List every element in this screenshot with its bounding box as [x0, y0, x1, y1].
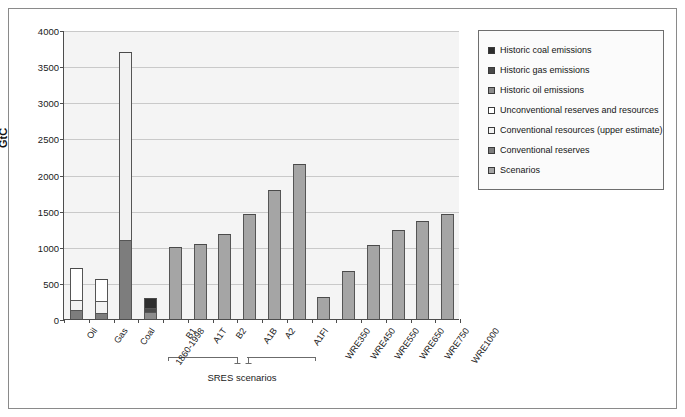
bar-segment [218, 234, 231, 319]
bar-segment [342, 271, 355, 319]
bar[interactable] [243, 214, 256, 319]
legend-swatch-icon [488, 167, 495, 174]
legend-item[interactable]: Conventional reserves [488, 140, 655, 160]
x-axis-tick-mark [64, 319, 65, 323]
bar-segment [392, 230, 405, 319]
gridline [64, 31, 459, 32]
x-axis-tick-mark [138, 319, 139, 323]
y-axis-tick-mark [60, 103, 64, 104]
x-axis-tick-mark [188, 319, 189, 323]
x-axis-tick-mark [411, 319, 412, 323]
sres-brace-label: SRES scenarios [168, 372, 316, 383]
x-axis-tick-mark [114, 319, 115, 323]
bar[interactable] [268, 190, 281, 319]
bar[interactable] [441, 214, 454, 319]
x-axis-tick-mark [435, 319, 436, 323]
legend-swatch-icon [488, 147, 495, 154]
bar[interactable] [293, 164, 306, 319]
bar[interactable] [218, 234, 231, 319]
chart-root: GtC 05001000150020002500300035004000 SRE… [0, 0, 685, 417]
y-axis-tick-label: 0 [54, 315, 59, 326]
legend-item-label: Historic oil emissions [500, 86, 584, 95]
bar-segment [119, 52, 132, 240]
bar[interactable] [367, 245, 380, 319]
legend-item-label: Historic gas emissions [500, 66, 590, 75]
bar-segment [367, 245, 380, 319]
x-axis-tick-mark [89, 319, 90, 323]
x-axis-tick-mark [163, 319, 164, 323]
legend-item[interactable]: Historic gas emissions [488, 60, 655, 80]
x-axis-tick-mark [213, 319, 214, 323]
bar-segment [416, 221, 429, 319]
bar-segment [95, 279, 108, 301]
y-axis-tick-label: 4000 [38, 26, 59, 37]
y-axis-tick-mark [60, 139, 64, 140]
y-axis-tick-mark [60, 176, 64, 177]
y-axis-tick-labels: 05001000150020002500300035004000 [25, 31, 59, 320]
bar[interactable] [416, 221, 429, 319]
x-axis-tick-mark [386, 319, 387, 323]
legend-item-label: Historic coal emissions [500, 46, 592, 55]
x-axis-tick-mark [336, 319, 337, 323]
y-axis-tick-mark [60, 212, 64, 213]
y-axis-tick-mark [60, 31, 64, 32]
legend-swatch-icon [488, 47, 495, 54]
bar[interactable] [194, 244, 207, 319]
bar-segment [95, 313, 108, 320]
bar-segment [95, 301, 108, 313]
bar[interactable] [342, 271, 355, 319]
legend-item[interactable]: Unconventional reserves and resources [488, 100, 655, 120]
bar[interactable] [119, 52, 132, 319]
legend-item-label: Conventional resources (upper estimate) [500, 126, 663, 135]
y-axis-tick-label: 1000 [38, 242, 59, 253]
y-axis-tick-label: 2500 [38, 134, 59, 145]
legend-swatch-icon [488, 67, 495, 74]
bar-segment [70, 268, 83, 300]
x-axis-tick-mark [237, 319, 238, 323]
y-axis-tick-label: 500 [43, 278, 59, 289]
y-axis-tick-label: 2000 [38, 170, 59, 181]
bar-segment [119, 240, 132, 319]
legend-swatch-icon [488, 87, 495, 94]
bar[interactable] [144, 298, 157, 319]
bar[interactable] [95, 279, 108, 319]
legend-item-label: Unconventional reserves and resources [500, 106, 659, 115]
sres-brace [168, 356, 316, 368]
bar-segment [144, 312, 157, 319]
legend-item-label: Conventional reserves [500, 146, 590, 155]
y-axis-tick-label: 3500 [38, 62, 59, 73]
bar-segment [194, 244, 207, 319]
bar[interactable] [392, 230, 405, 319]
bar-segment [268, 190, 281, 319]
legend-swatch-icon [488, 107, 495, 114]
bar-segment [144, 298, 157, 308]
x-axis-tick-mark [262, 319, 263, 323]
legend-item[interactable]: Historic coal emissions [488, 40, 655, 60]
y-axis-tick-mark [60, 284, 64, 285]
bar-segment [243, 214, 256, 319]
x-axis-tick-mark [312, 319, 313, 323]
legend-item[interactable]: Conventional resources (upper estimate) [488, 120, 655, 140]
x-axis-tick-mark [361, 319, 362, 323]
bar-segment [70, 310, 83, 319]
plot-area [63, 31, 459, 320]
legend-item-label: Scenarios [500, 166, 540, 175]
legend-item[interactable]: Historic oil emissions [488, 80, 655, 100]
bar-segment [293, 164, 306, 319]
bar-segment [441, 214, 454, 319]
y-axis-tick-label: 1500 [38, 206, 59, 217]
bar[interactable] [70, 268, 83, 319]
y-axis-tick-mark [60, 67, 64, 68]
bar-segment [70, 300, 83, 311]
y-axis-tick-label: 3000 [38, 98, 59, 109]
bar-segment [169, 247, 182, 319]
x-axis-tick-mark [287, 319, 288, 323]
legend-swatch-icon [488, 127, 495, 134]
y-axis-title: GtC [0, 128, 9, 148]
bar[interactable] [169, 247, 182, 319]
x-axis-tick-mark [460, 319, 461, 323]
legend-item[interactable]: Scenarios [488, 160, 655, 180]
bar-segment [317, 297, 330, 319]
chart-legend: Historic coal emissionsHistoric gas emis… [478, 30, 664, 190]
bar[interactable] [317, 297, 330, 319]
